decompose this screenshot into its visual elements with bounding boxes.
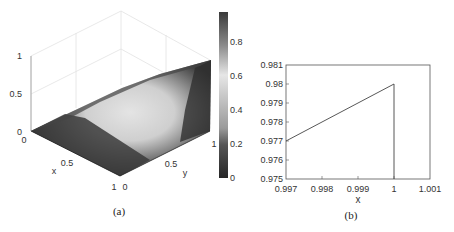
x-tick-1: 1 (111, 182, 116, 192)
z-tick-0.5: 0.5 (9, 89, 22, 99)
b-x-tick-0.998: 0.998 (311, 184, 334, 194)
y-axis-label: y (183, 168, 188, 178)
x-tick-0: 0 (21, 135, 26, 145)
panel-b-axes-box (286, 65, 430, 179)
b-y-tick-0.981: 0.981 (260, 60, 283, 70)
b-x-tick-1: 1 (391, 184, 396, 194)
colorbar: 0 0.2 0.4 0.6 0.8 (219, 12, 243, 183)
b-y-tick-0.975: 0.975 (260, 174, 283, 184)
b-y-tick-0.977: 0.977 (260, 136, 283, 146)
b-x-tick-0.999: 0.999 (347, 184, 370, 194)
y-tick-1: 1 (211, 139, 216, 149)
colorbar-tick-0.8: 0.8 (230, 37, 243, 47)
b-y-tick-0.978: 0.978 (260, 117, 283, 127)
panel-a-z-axis: 1 0.5 0 (9, 51, 31, 137)
z-tick-1: 1 (17, 51, 22, 61)
b-y-tick-0.979: 0.979 (260, 98, 283, 108)
figure: 1 0.5 0 0 0.5 1 x 0 0.5 1 y 0 0.2 0.4 0.… (0, 0, 454, 232)
b-x-tick-0.997: 0.997 (275, 184, 298, 194)
b-x-axis-label: x (356, 194, 361, 205)
colorbar-tick-0: 0 (230, 173, 235, 183)
panel-b: 0.981 0.98 0.979 0.978 0.977 0.976 0.975… (260, 60, 441, 205)
b-x-tick-1.001: 1.001 (419, 184, 442, 194)
caption-b: (b) (345, 209, 358, 222)
caption-a: (a) (113, 205, 126, 218)
b-y-tick-0.976: 0.976 (260, 155, 283, 165)
x-tick-0.5: 0.5 (61, 158, 74, 168)
colorbar-tick-0.4: 0.4 (230, 105, 243, 115)
b-y-tick-0.98: 0.98 (265, 79, 283, 89)
y-tick-0.5: 0.5 (165, 159, 178, 169)
colorbar-tick-0.6: 0.6 (230, 71, 243, 81)
colorbar-tick-0.2: 0.2 (230, 139, 243, 149)
y-tick-0: 0 (122, 182, 127, 192)
x-axis-label: x (52, 166, 57, 176)
